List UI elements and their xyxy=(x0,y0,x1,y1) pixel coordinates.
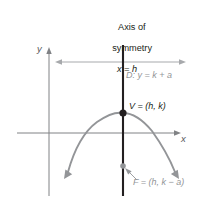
y-axis-arrowhead xyxy=(46,47,51,54)
title-line-2: symmetry xyxy=(112,43,152,53)
axis-of-symmetry-title: Axis of symmetry x = h xyxy=(96,12,158,95)
y-axis-label: y xyxy=(37,44,42,55)
directrix-arrowhead-left xyxy=(55,59,62,64)
vertex-label: V = (h, k) xyxy=(129,101,166,111)
directrix-arrowhead-right xyxy=(179,59,186,64)
title-line-1: Axis of xyxy=(118,22,146,32)
focus-label: F = (h, k − a) xyxy=(133,177,184,187)
focus-point xyxy=(120,163,126,169)
directrix-label: D: y = k + a xyxy=(126,70,172,80)
vertex-point xyxy=(119,109,126,116)
parabola-curve xyxy=(64,113,179,179)
x-axis-label: x xyxy=(181,134,186,145)
x-axis-arrowhead xyxy=(174,130,181,135)
parabola-diagram: Axis of symmetry x = h y x D: y = k + a … xyxy=(0,0,199,202)
